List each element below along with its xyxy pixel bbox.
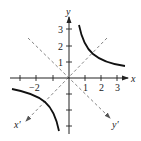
hyperbola-diagram: x y x′ y′ −2 1 2 3 1 2 3	[0, 0, 141, 141]
y-prime-label: y′	[111, 119, 119, 130]
x-tick-label: 1	[83, 82, 88, 93]
y-axis-label: y	[65, 6, 71, 17]
x-axis-label: x	[130, 73, 136, 84]
x-prime-label: x′	[13, 119, 21, 130]
x-tick-label: 2	[99, 82, 104, 93]
rotated-axes	[26, 38, 110, 121]
x-prime-axis	[26, 38, 107, 121]
y-tick-label: 2	[58, 41, 63, 52]
main-axes	[10, 17, 128, 134]
y-tick-label: 1	[58, 57, 63, 68]
x-tick-label: 3	[115, 82, 120, 93]
y-tick-label: 3	[58, 24, 63, 35]
x-tick-label: −2	[29, 82, 40, 93]
